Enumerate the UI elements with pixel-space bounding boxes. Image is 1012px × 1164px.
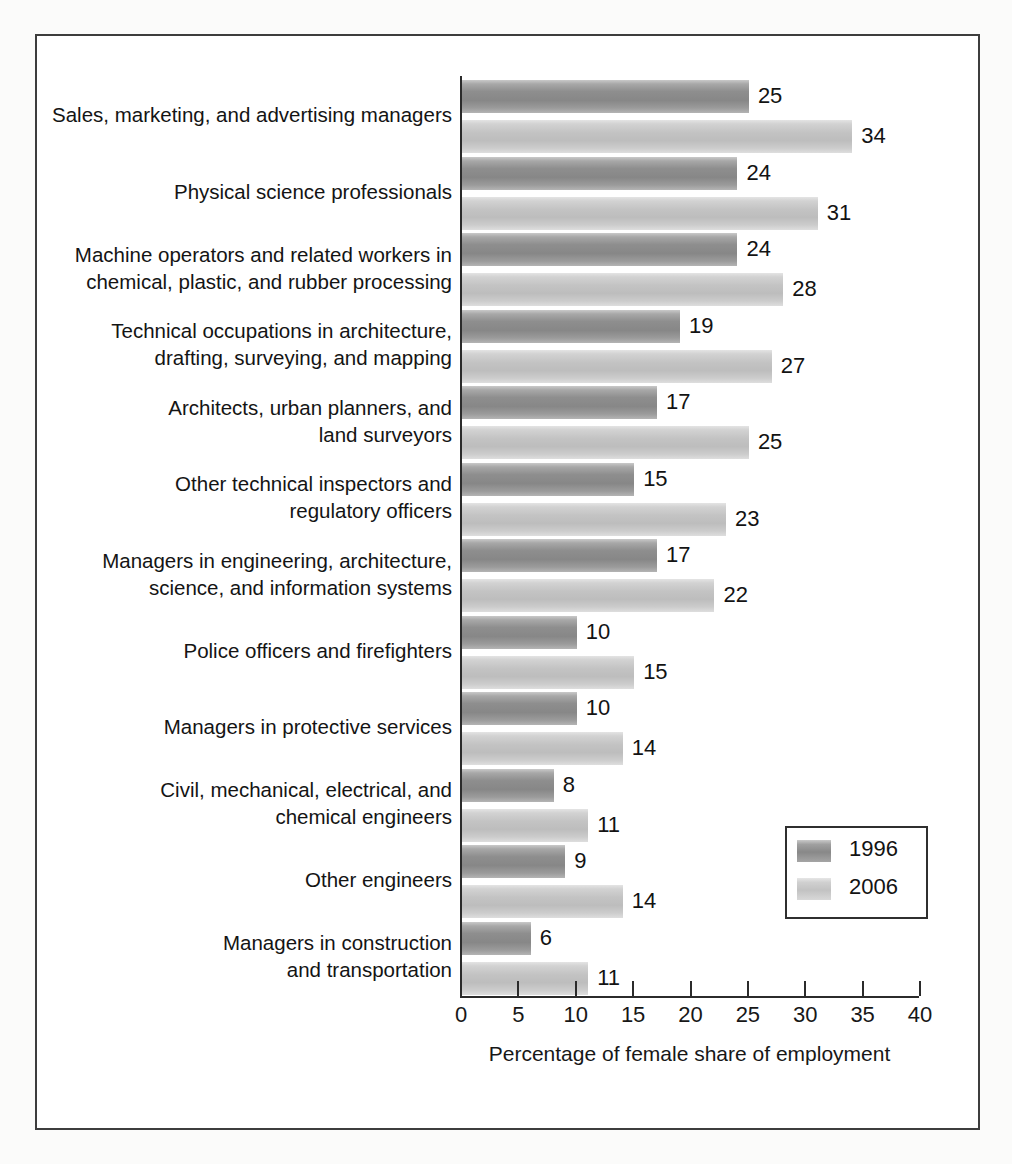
- bar-group: Managers in constructionand transportati…: [37, 922, 982, 995]
- bar-1996[interactable]: [462, 80, 749, 113]
- x-axis-line: [460, 996, 919, 998]
- x-axis-tick: [517, 981, 519, 996]
- bar-value-label: 27: [781, 353, 805, 379]
- category-label-line: land surveyors: [32, 421, 452, 448]
- x-axis-tick: [690, 981, 692, 996]
- bar-2006[interactable]: [462, 885, 623, 918]
- x-axis-tick: [460, 981, 462, 996]
- legend-label: 1996: [849, 836, 898, 862]
- bar-row: 17: [462, 539, 727, 572]
- bar-2006[interactable]: [462, 197, 818, 230]
- category-label: Managers in engineering, architecture,sc…: [32, 547, 452, 601]
- legend-label: 2006: [849, 874, 898, 900]
- bar-2006[interactable]: [462, 656, 634, 689]
- bar-1996[interactable]: [462, 157, 737, 190]
- bar-value-label: 15: [643, 659, 667, 685]
- category-label: Managers in protective services: [32, 713, 452, 740]
- bar-group: Sales, marketing, and advertising manage…: [37, 80, 982, 153]
- bar-row: 14: [462, 732, 693, 765]
- x-axis-tick: [919, 981, 921, 996]
- bar-group: Physical science professionals2431: [37, 157, 982, 230]
- bar-2006[interactable]: [462, 120, 852, 153]
- bar-value-label: 25: [758, 83, 782, 109]
- bar-1996[interactable]: [462, 539, 657, 572]
- bar-row: 14: [462, 885, 693, 918]
- bar-value-label: 22: [723, 582, 747, 608]
- category-label: Sales, marketing, and advertising manage…: [32, 101, 452, 128]
- bar-value-label: 10: [586, 695, 610, 721]
- category-label-line: Other technical inspectors and: [32, 470, 452, 497]
- bar-value-label: 9: [574, 848, 586, 874]
- bar-row: 6: [462, 922, 601, 955]
- bar-row: 24: [462, 157, 807, 190]
- category-label-line: Other engineers: [32, 866, 452, 893]
- bar-row: 25: [462, 426, 819, 459]
- bar-row: 24: [462, 233, 807, 266]
- bar-1996[interactable]: [462, 310, 680, 343]
- x-axis-tick-label: 15: [613, 1002, 653, 1028]
- bar-value-label: 24: [746, 236, 770, 262]
- category-label-line: Machine operators and related workers in: [32, 241, 452, 268]
- bar-1996[interactable]: [462, 922, 531, 955]
- bar-row: 15: [462, 463, 704, 496]
- bar-row: 8: [462, 769, 624, 802]
- bar-row: 25: [462, 80, 819, 113]
- bar-row: 34: [462, 120, 922, 153]
- category-label: Technical occupations in architecture,dr…: [32, 317, 452, 371]
- bar-row: 17: [462, 386, 727, 419]
- x-axis-title: Percentage of female share of employment: [460, 1042, 919, 1066]
- bar-group: Technical occupations in architecture,dr…: [37, 310, 982, 383]
- category-label-line: Managers in protective services: [32, 713, 452, 740]
- figure-frame: Sales, marketing, and advertising manage…: [35, 34, 980, 1130]
- bar-row: 19: [462, 310, 750, 343]
- bar-2006[interactable]: [462, 503, 726, 536]
- bar-1996[interactable]: [462, 769, 554, 802]
- category-label-line: chemical, plastic, and rubber processing: [32, 268, 452, 295]
- bar-value-label: 19: [689, 313, 713, 339]
- category-label-line: chemical engineers: [32, 803, 452, 830]
- bar-value-label: 17: [666, 542, 690, 568]
- category-label: Managers in constructionand transportati…: [32, 929, 452, 983]
- legend-swatch-icon: [797, 878, 831, 900]
- x-axis-tick: [575, 981, 577, 996]
- category-label: Physical science professionals: [32, 178, 452, 205]
- bar-1996[interactable]: [462, 233, 737, 266]
- bar-2006[interactable]: [462, 809, 588, 842]
- bar-1996[interactable]: [462, 463, 634, 496]
- x-axis-tick-label: 25: [728, 1002, 768, 1028]
- x-axis-tick-label: 40: [900, 1002, 940, 1028]
- bar-group: Managers in engineering, architecture,sc…: [37, 539, 982, 612]
- bar-1996[interactable]: [462, 386, 657, 419]
- x-axis-tick-label: 5: [498, 1002, 538, 1028]
- bar-1996[interactable]: [462, 616, 577, 649]
- bar-1996[interactable]: [462, 845, 565, 878]
- bar-group: Architects, urban planners, andland surv…: [37, 386, 982, 459]
- category-label-line: Technical occupations in architecture,: [32, 317, 452, 344]
- bar-2006[interactable]: [462, 732, 623, 765]
- category-label: Other engineers: [32, 866, 452, 893]
- bar-1996[interactable]: [462, 692, 577, 725]
- bar-2006[interactable]: [462, 426, 749, 459]
- bar-row: 11: [462, 809, 658, 842]
- category-label: Other technical inspectors andregulatory…: [32, 470, 452, 524]
- bar-row: 31: [462, 197, 888, 230]
- bar-value-label: 11: [597, 965, 620, 991]
- x-axis-tick: [862, 981, 864, 996]
- bar-group: Other technical inspectors andregulatory…: [37, 463, 982, 536]
- bar-2006[interactable]: [462, 273, 783, 306]
- bar-2006[interactable]: [462, 350, 772, 383]
- category-label: Civil, mechanical, electrical, andchemic…: [32, 776, 452, 830]
- x-axis-tick: [804, 981, 806, 996]
- bar-2006[interactable]: [462, 962, 588, 995]
- bar-value-label: 15: [643, 466, 667, 492]
- x-axis-tick-label: 35: [843, 1002, 883, 1028]
- bar-value-label: 34: [861, 123, 885, 149]
- bar-value-label: 11: [597, 812, 620, 838]
- bar-value-label: 24: [746, 160, 770, 186]
- category-label-line: Civil, mechanical, electrical, and: [32, 776, 452, 803]
- bar-2006[interactable]: [462, 579, 714, 612]
- x-axis-tick-label: 30: [785, 1002, 825, 1028]
- x-axis-tick-label: 0: [441, 1002, 481, 1028]
- category-label-line: Police officers and firefighters: [32, 637, 452, 664]
- category-label-line: Architects, urban planners, and: [32, 394, 452, 421]
